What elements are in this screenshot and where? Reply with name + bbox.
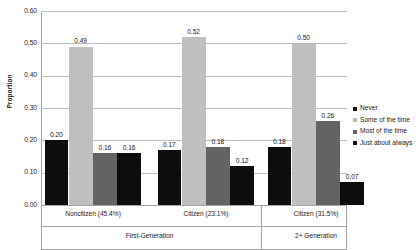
y-axis-tick-label: 0.20 bbox=[3, 137, 37, 144]
bar-value-label: 0.07 bbox=[346, 174, 359, 181]
bar: 0.18 bbox=[206, 147, 230, 205]
y-axis-tick-label: 0.30 bbox=[3, 105, 37, 112]
legend-label: Some of the time bbox=[360, 117, 410, 124]
y-axis-tick-label: 0.00 bbox=[3, 202, 37, 209]
bar-chart: Proportion 0.600.500.400.300.200.100.00 … bbox=[0, 0, 418, 250]
bar: 0.50 bbox=[292, 43, 316, 205]
y-axis-tick-labels: 0.600.500.400.300.200.100.00 bbox=[0, 11, 37, 205]
y-axis-tick-label: 0.50 bbox=[3, 40, 37, 47]
bar: 0.16 bbox=[93, 153, 117, 205]
bar: 0.16 bbox=[117, 153, 141, 205]
legend-swatch-icon bbox=[353, 141, 357, 145]
axis-tier-divider bbox=[41, 226, 347, 227]
category-label: Citizen (23.1%) bbox=[146, 211, 266, 218]
bar: 0.20 bbox=[45, 140, 69, 205]
bar-value-label: 0.16 bbox=[98, 145, 111, 152]
group-label: First-Generation bbox=[80, 233, 220, 240]
bar-value-label: 0.18 bbox=[273, 139, 286, 146]
legend-swatch-icon bbox=[353, 118, 357, 122]
legend-label: Most of the time bbox=[360, 128, 407, 135]
group-label: 2+ Generation bbox=[246, 233, 386, 240]
bar-value-label: 0.17 bbox=[163, 142, 176, 149]
legend-item[interactable]: Just about always bbox=[353, 138, 418, 150]
bar-value-label: 0.20 bbox=[50, 132, 63, 139]
bar-group: 0.170.520.180.12 bbox=[158, 11, 255, 205]
axis-separator bbox=[41, 205, 42, 250]
legend-item[interactable]: Never bbox=[353, 103, 418, 115]
bar-value-label: 0.16 bbox=[123, 145, 136, 152]
legend-swatch-icon bbox=[353, 130, 357, 134]
bars-layer: 0.200.490.160.160.170.520.180.120.180.50… bbox=[41, 11, 347, 205]
legend: NeverSome of the timeMost of the timeJus… bbox=[353, 103, 418, 149]
category-label: Noncitizen (45.4%) bbox=[33, 211, 153, 218]
bar-value-label: 0.26 bbox=[321, 113, 334, 120]
legend-label: Never bbox=[360, 105, 378, 112]
y-axis-tick-label: 0.10 bbox=[3, 169, 37, 176]
bar-value-label: 0.52 bbox=[187, 29, 200, 36]
bar: 0.12 bbox=[230, 166, 254, 205]
bar: 0.26 bbox=[316, 121, 340, 205]
bar-value-label: 0.49 bbox=[74, 38, 87, 45]
bar-value-label: 0.50 bbox=[297, 35, 310, 42]
y-axis-tick-label: 0.60 bbox=[3, 8, 37, 15]
bar-group: 0.180.500.260.07 bbox=[268, 11, 365, 205]
bar: 0.17 bbox=[158, 150, 182, 205]
bar: 0.49 bbox=[69, 47, 93, 205]
bar: 0.52 bbox=[182, 37, 206, 205]
bar-group: 0.200.490.160.16 bbox=[45, 11, 142, 205]
bar-value-label: 0.18 bbox=[211, 139, 224, 146]
bar-value-label: 0.12 bbox=[236, 158, 249, 165]
axis-separator bbox=[261, 205, 262, 250]
axis-separator bbox=[346, 205, 347, 250]
legend-swatch-icon bbox=[353, 107, 357, 111]
group-labels-row: First-Generation2+ Generation bbox=[41, 226, 347, 250]
legend-item[interactable]: Most of the time bbox=[353, 126, 418, 138]
legend-label: Just about always bbox=[360, 140, 412, 147]
legend-item[interactable]: Some of the time bbox=[353, 115, 418, 127]
bar: 0.07 bbox=[340, 182, 364, 205]
category-labels-row: Noncitizen (45.4%)Citizen (23.1%)Citizen… bbox=[41, 205, 347, 226]
category-label: Citizen (31.5%) bbox=[256, 211, 376, 218]
category-axis: Noncitizen (45.4%)Citizen (23.1%)Citizen… bbox=[41, 205, 347, 250]
y-axis-tick-label: 0.40 bbox=[3, 72, 37, 79]
bar: 0.18 bbox=[268, 147, 292, 205]
